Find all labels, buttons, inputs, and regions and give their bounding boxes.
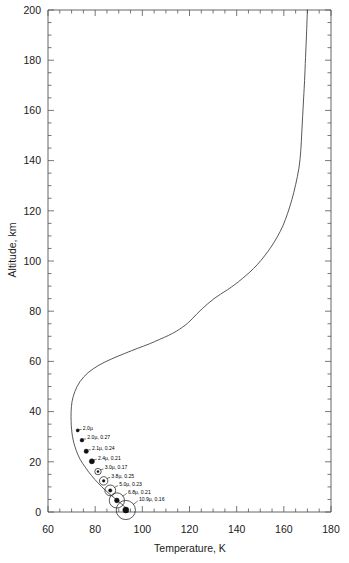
x-tick-label: 60 bbox=[42, 523, 54, 535]
annotation-item: 2.0µ bbox=[76, 425, 93, 432]
annotation-markers: 2.0µ2.0µ, 0.272.1µ, 0.242.4µ, 0.213.0µ, … bbox=[76, 425, 165, 520]
x-tick-label: 80 bbox=[89, 523, 101, 535]
data-point-marker bbox=[102, 480, 105, 483]
chart-svg: 6080100120140160180 02040608010012014016… bbox=[0, 0, 349, 563]
x-tick-label: 120 bbox=[181, 523, 199, 535]
annotation-leader-line bbox=[94, 459, 97, 460]
annotation-label: 2.0µ, 0.27 bbox=[87, 434, 110, 440]
y-tick-label: 0 bbox=[35, 506, 41, 518]
x-tick-label: 140 bbox=[228, 523, 246, 535]
y-tick-label: 60 bbox=[29, 355, 41, 367]
annotation-leader-line bbox=[107, 477, 110, 478]
y-tick-label: 80 bbox=[29, 305, 41, 317]
annotation-leader-line bbox=[123, 493, 127, 496]
x-axis-tick-labels: 6080100120140160180 bbox=[42, 523, 340, 535]
annotation-leader-line bbox=[114, 486, 118, 488]
annotation-label: 6.8µ, 0.21 bbox=[128, 489, 151, 495]
y-axis-title: Altitude, km bbox=[6, 222, 18, 277]
annotation-item: 10.9µ, 0.16 bbox=[116, 496, 164, 519]
data-point-marker bbox=[84, 449, 88, 453]
y-tick-label: 40 bbox=[29, 405, 41, 417]
data-point-marker bbox=[109, 489, 112, 492]
annotation-leader-line bbox=[133, 501, 138, 505]
annotation-label: 2.1µ, 0.24 bbox=[92, 445, 115, 451]
x-tick-label: 100 bbox=[134, 523, 152, 535]
annotation-item: 2.1µ, 0.24 bbox=[84, 445, 115, 453]
y-tick-label: 20 bbox=[29, 456, 41, 468]
data-point-marker bbox=[80, 438, 84, 442]
y-axis-tick-labels: 020406080100120140160180200 bbox=[23, 4, 41, 518]
data-point-marker bbox=[97, 470, 99, 472]
x-tick-label: 160 bbox=[275, 523, 293, 535]
y-tick-label: 100 bbox=[23, 255, 41, 267]
annotation-item: 2.0µ, 0.27 bbox=[80, 434, 110, 442]
annotation-label: 5.0µ, 0.23 bbox=[119, 481, 142, 487]
y-tick-label: 200 bbox=[23, 4, 41, 16]
annotation-label: 2.4µ, 0.21 bbox=[98, 455, 121, 461]
annotation-label: 2.0µ bbox=[83, 425, 93, 431]
annotation-label: 10.9µ, 0.16 bbox=[139, 496, 165, 502]
annotation-label: 3.0µ, 0.17 bbox=[105, 464, 128, 470]
y-tick-label: 120 bbox=[23, 205, 41, 217]
y-tick-label: 180 bbox=[23, 54, 41, 66]
data-point-marker bbox=[123, 507, 129, 513]
temperature-altitude-chart: 6080100120140160180 02040608010012014016… bbox=[0, 0, 349, 563]
x-axis-title: Temperature, K bbox=[154, 542, 226, 554]
x-tick-label: 180 bbox=[322, 523, 340, 535]
annotation-item: 2.4µ, 0.21 bbox=[89, 455, 121, 464]
y-tick-label: 140 bbox=[23, 154, 41, 166]
data-point-marker bbox=[89, 459, 94, 464]
data-point-marker bbox=[76, 429, 79, 432]
annotation-label: 3.8µ, 0.25 bbox=[111, 473, 134, 479]
annotation-leader-line bbox=[100, 469, 103, 470]
data-point-marker bbox=[114, 498, 119, 503]
y-tick-label: 160 bbox=[23, 104, 41, 116]
